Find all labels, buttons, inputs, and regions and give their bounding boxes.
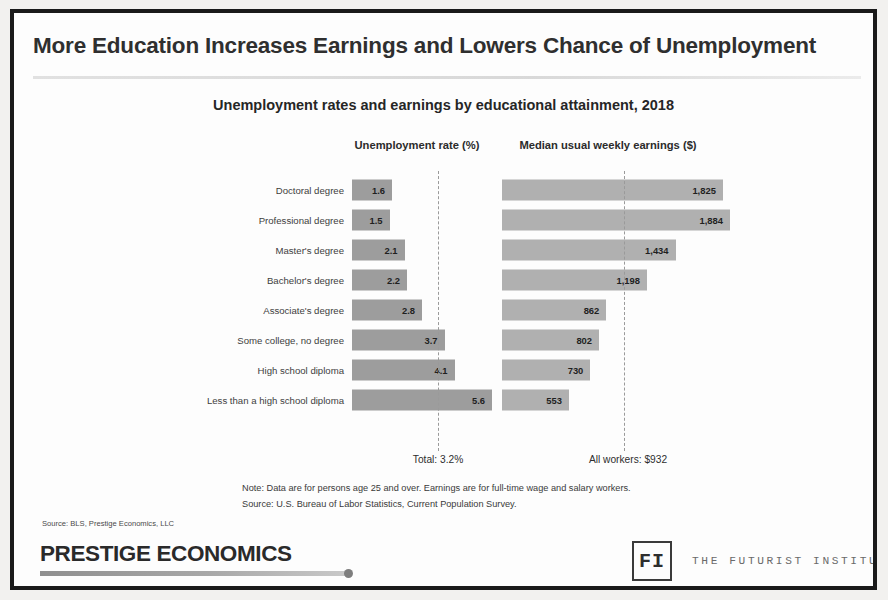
category-label: Some college, no degree xyxy=(50,335,344,346)
bar-value-unemployment: 1.5 xyxy=(369,215,389,226)
chart-note: Note: Data are for persons age 25 and ov… xyxy=(242,483,631,493)
category-label: Associate's degree xyxy=(50,305,344,316)
chart-row: Bachelor's degree2.21,198 xyxy=(14,265,873,295)
bar-earnings: 1,434 xyxy=(502,240,676,261)
bar-earnings: 1,884 xyxy=(502,210,730,231)
fi-wordmark: THE FUTURIST INSTITUTE xyxy=(692,555,877,567)
bar-value-earnings: 862 xyxy=(584,305,607,316)
bar-unemployment: 3.7 xyxy=(352,330,445,351)
reference-label-unemployment: Total: 3.2% xyxy=(413,454,463,465)
bar-earnings: 1,198 xyxy=(502,270,647,291)
bar-value-unemployment: 1.6 xyxy=(372,185,392,196)
chart-row: Less than a high school diploma5.6553 xyxy=(14,385,873,415)
chart-row: Master's degree2.11,434 xyxy=(14,235,873,265)
fi-logo-icon: FI xyxy=(632,541,672,581)
category-label: Doctoral degree xyxy=(50,185,344,196)
bar-unemployment: 2.8 xyxy=(352,300,422,321)
category-label: Less than a high school diploma xyxy=(50,395,344,406)
bar-value-unemployment: 2.2 xyxy=(387,275,407,286)
chart-row: Doctoral degree1.61,825 xyxy=(14,175,873,205)
slide-border: More Education Increases Earnings and Lo… xyxy=(10,9,877,590)
bar-unemployment: 4.1 xyxy=(352,360,455,381)
bar-earnings: 553 xyxy=(502,390,569,411)
bar-unemployment: 2.1 xyxy=(352,240,405,261)
bar-unemployment: 1.6 xyxy=(352,180,392,201)
bar-value-unemployment: 3.7 xyxy=(424,335,444,346)
slide-frame: More Education Increases Earnings and Lo… xyxy=(0,0,888,600)
reference-label-earnings: All workers: $932 xyxy=(589,454,667,465)
bar-unemployment: 5.6 xyxy=(352,390,492,411)
bar-earnings: 802 xyxy=(502,330,599,351)
bar-value-earnings: 802 xyxy=(576,335,599,346)
bar-earnings: 862 xyxy=(502,300,606,321)
chart-row: High school diploma4.1730 xyxy=(14,355,873,385)
bar-unemployment: 2.2 xyxy=(352,270,407,291)
slide-content: More Education Increases Earnings and Lo… xyxy=(14,13,873,586)
category-label: Professional degree xyxy=(50,215,344,226)
bar-value-earnings: 730 xyxy=(568,365,591,376)
footer-futurist-institute: FI THE FUTURIST INSTITUTE xyxy=(632,541,877,581)
bar-earnings: 730 xyxy=(502,360,590,381)
chart-source: Source: U.S. Bureau of Labor Statistics,… xyxy=(242,499,517,509)
category-label: Bachelor's degree xyxy=(50,275,344,286)
bar-value-unemployment: 2.1 xyxy=(384,245,404,256)
footer-brand: PRESTIGE ECONOMICS xyxy=(40,541,350,576)
bar-earnings: 1,825 xyxy=(502,180,723,201)
reference-line-earnings xyxy=(624,171,625,451)
bar-value-unemployment: 2.8 xyxy=(402,305,422,316)
bar-value-earnings: 553 xyxy=(546,395,569,406)
category-label: High school diploma xyxy=(50,365,344,376)
bar-value-earnings: 1,198 xyxy=(617,275,647,286)
chart-row: Some college, no degree3.7802 xyxy=(14,325,873,355)
source-credit: Source: BLS, Prestige Economics, LLC xyxy=(42,519,174,528)
chart-row: Associate's degree2.8862 xyxy=(14,295,873,325)
bar-value-earnings: 1,884 xyxy=(700,215,730,226)
reference-line-unemployment xyxy=(438,171,439,451)
brand-name: PRESTIGE ECONOMICS xyxy=(40,541,350,567)
bar-value-earnings: 1,825 xyxy=(692,185,722,196)
brand-underline-icon xyxy=(40,571,350,576)
bar-value-unemployment: 5.6 xyxy=(472,395,492,406)
category-label: Master's degree xyxy=(50,245,344,256)
chart-row: Professional degree1.51,884 xyxy=(14,205,873,235)
bar-value-earnings: 1,434 xyxy=(645,245,675,256)
bar-unemployment: 1.5 xyxy=(352,210,390,231)
